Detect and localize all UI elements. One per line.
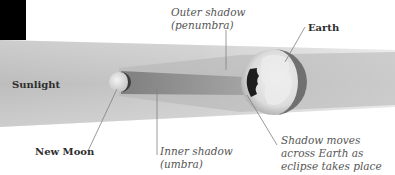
new-moon-label: New Moon xyxy=(35,145,94,158)
outer-shadow-label: Outer shadow (penumbra) xyxy=(171,6,246,32)
earth-label: Earth xyxy=(308,21,339,34)
corner-block xyxy=(0,0,26,40)
sunlight-label: Sunlight xyxy=(12,78,60,91)
solar-eclipse-diagram: Outer shadow (penumbra) Earth Sunlight N… xyxy=(0,0,395,175)
inner-shadow-label: Inner shadow (umbra) xyxy=(160,145,233,171)
shadow-moves-label: Shadow moves across Earth as eclipse tak… xyxy=(281,134,382,173)
